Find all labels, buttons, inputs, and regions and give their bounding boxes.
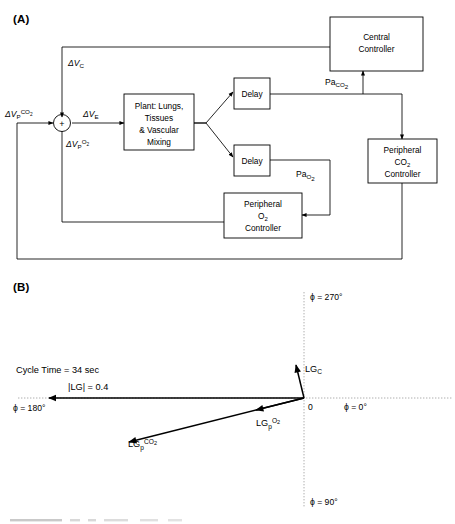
connector-central-to-sum [62,47,330,117]
phase-180-label: ϕ = 180° [13,403,45,413]
peripheral-o2-line-2: O2 [258,211,268,222]
vector-lg-c [296,365,304,398]
signal-delta-vp-co2: ΔVPCO2 [4,108,33,120]
connector-plant-to-delay-co2 [194,92,233,123]
cycle-time-label: Cycle Time = 34 sec [16,365,99,375]
panel-b-diagram: Cycle Time = 34 sec |LG| = 0.4 ϕ = 270° … [13,292,452,508]
delay-co2-label: Delay [241,89,263,99]
origin-label: 0 [308,402,313,412]
plant-line-1: Plant: Lungs, [135,101,183,111]
phase-90-label: ϕ = 90° [310,497,338,507]
signal-pa-co2: PaCO2 [325,77,349,90]
figure-svg: + Central Controller Plant: Lungs, Tissu… [0,0,455,524]
plant-line-4: Mixing [147,137,171,147]
block-peripheral-co2-controller[interactable]: Peripheral CO2 Controller [368,139,437,183]
peripheral-co2-line-3: Controller [385,169,421,179]
peripheral-co2-line-2: CO2 [395,157,411,168]
label-lg-c: LGC [305,364,322,375]
signal-pa-o2: PaO2 [296,169,315,182]
panel-a-signal-labels: ΔVC ΔVPCO2 ΔVE ΔVPO2 PaCO2 PaO2 [4,58,349,182]
plant-line-3: & Vascular [139,125,179,135]
block-plant[interactable]: Plant: Lungs, Tissues & Vascular Mixing [124,94,194,150]
delay-o2-label: Delay [241,156,263,166]
peripheral-co2-line-1: Peripheral [384,145,422,155]
plant-line-2: Tissues [145,113,173,123]
vector-lg-p-o2 [256,398,304,410]
figure-caption-cropped [10,519,182,521]
block-central-controller[interactable]: Central Controller [330,17,423,71]
signal-delta-vc: ΔVC [67,58,85,69]
connector-plant-to-delay-o2 [194,123,233,157]
summing-junction-sign: + [59,119,64,129]
block-peripheral-o2-controller[interactable]: Peripheral O2 Controller [224,193,302,238]
peripheral-o2-line-3: Controller [245,223,281,233]
phase-0-label: ϕ = 0° [344,402,367,412]
signal-delta-vp-o2: ΔVPO2 [65,138,89,150]
central-controller-line-2: Controller [359,44,395,54]
central-controller-line-1: Central [363,32,390,42]
figure-container: (A) (B) [0,0,455,524]
phase-270-label: ϕ = 270° [310,292,342,302]
block-delay-o2[interactable]: Delay [234,145,270,176]
peripheral-o2-line-1: Peripheral [244,199,282,209]
panel-a-diagram: + Central Controller Plant: Lungs, Tissu… [4,17,437,259]
label-lg-p-o2: LGpO2 [256,417,280,431]
block-delay-co2[interactable]: Delay [234,78,270,109]
signal-delta-ve: ΔVE [82,109,99,120]
loop-gain-label: |LG| = 0.4 [68,382,108,392]
label-lg-p-co2: LGpCO2 [128,438,157,452]
panel-a-connections [17,47,402,259]
summing-junction: + [54,115,71,132]
